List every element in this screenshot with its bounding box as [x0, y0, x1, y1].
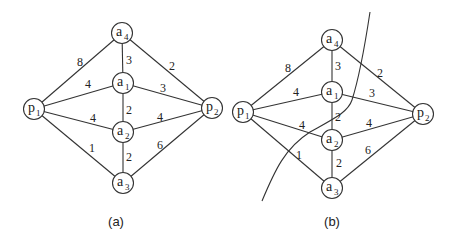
edge-weight: 2: [377, 66, 383, 80]
node-label: p: [206, 99, 213, 114]
node-a-p2: p2: [202, 98, 223, 119]
cut-curve: [262, 12, 370, 201]
edge-weight: 4: [90, 111, 96, 125]
edge-a-a1-p2: [123, 83, 212, 108]
edge-weight: 6: [365, 143, 371, 157]
edge-weight: 2: [169, 59, 175, 73]
node-a-a4: a4: [112, 23, 133, 44]
edge-weight: 2: [336, 156, 342, 170]
node-label: p: [28, 100, 35, 115]
node-a-a3: a3: [113, 173, 134, 194]
node-subscript: 2: [334, 139, 339, 149]
edge-weight: 4: [293, 85, 299, 99]
edge-a-a3-p2: [123, 108, 212, 183]
edge-weight: 3: [335, 59, 341, 73]
node-label: a: [117, 123, 124, 138]
edge-a-a2-p2: [123, 108, 212, 132]
edge-a-p1-a4: [34, 33, 122, 109]
edge-b-a2-p2: [332, 114, 423, 140]
edge-weight: 3: [160, 81, 166, 95]
edge-weight: 8: [77, 55, 83, 69]
node-subscript: 3: [125, 182, 130, 192]
edge-weight: 2: [126, 150, 132, 164]
edge-a-a4-p2: [122, 33, 212, 108]
edge-b-p1-a1: [243, 92, 332, 112]
node-b-a4: a4: [322, 30, 343, 51]
edge-b-p1-a2: [243, 112, 332, 140]
edge-weight: 4: [366, 116, 372, 130]
node-label: a: [326, 31, 333, 46]
caption-a: (a): [108, 214, 124, 229]
node-label: a: [116, 24, 123, 39]
node-b-a1: a1: [322, 82, 343, 103]
node-subscript: 3: [334, 187, 339, 197]
edge-weight: 6: [157, 138, 163, 152]
node-a-a2: a2: [113, 122, 134, 143]
edge-a-p1-a1: [34, 83, 123, 109]
edge-weight: 4: [299, 118, 305, 132]
edge-b-p1-a3: [243, 112, 332, 188]
node-subscript: 4: [334, 39, 339, 49]
node-a-a1: a1: [113, 73, 134, 94]
cut-curve-layer: [262, 12, 370, 201]
node-subscript: 2: [214, 107, 219, 117]
edge-weight: 3: [369, 86, 375, 100]
node-subscript: 1: [125, 82, 130, 92]
node-b-p2: p2: [413, 104, 434, 125]
node-b-p1: p1: [233, 102, 254, 123]
edge-weight: 3: [126, 53, 132, 67]
node-label: a: [117, 74, 124, 89]
node-label: a: [326, 131, 333, 146]
node-a-p1: p1: [24, 99, 45, 120]
node-subscript: 2: [425, 113, 430, 123]
node-b-a3: a3: [322, 178, 343, 199]
node-label: a: [326, 179, 333, 194]
node-subscript: 1: [334, 91, 339, 101]
edge-weight: 2: [126, 103, 132, 117]
nodes-layer: p1a4a1a2a3p2p1a4a1a2a3p2: [24, 23, 434, 199]
edge-b-p1-a4: [243, 40, 332, 112]
node-label: a: [326, 83, 333, 98]
graph-canvas: p1a4a1a2a3p2p1a4a1a2a3p2 844132223468441…: [0, 0, 453, 240]
node-subscript: 1: [36, 108, 41, 118]
edge-weight: 4: [85, 77, 91, 91]
edge-b-a3-p2: [332, 114, 423, 188]
node-subscript: 1: [245, 111, 250, 121]
edge-weight: 4: [157, 110, 163, 124]
node-b-a2: a2: [322, 130, 343, 151]
captions-layer: (a)(b): [108, 214, 340, 229]
caption-b: (b): [324, 214, 340, 229]
edge-weight: 2: [335, 110, 341, 124]
node-label: a: [117, 174, 124, 189]
edge-weight: 1: [296, 148, 302, 162]
node-subscript: 4: [124, 32, 129, 42]
node-label: p: [417, 105, 424, 120]
node-label: p: [237, 103, 244, 118]
edge-weight: 1: [89, 141, 95, 155]
node-subscript: 2: [125, 131, 130, 141]
edge-weight: 8: [285, 61, 291, 75]
